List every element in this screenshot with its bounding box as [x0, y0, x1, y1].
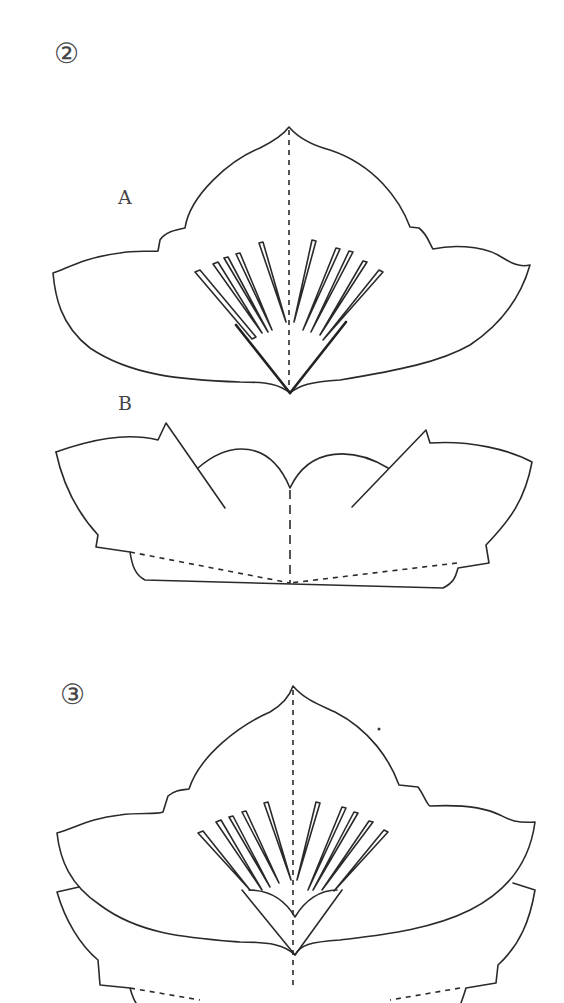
part-a-template — [53, 127, 530, 393]
diagram-canvas — [0, 0, 564, 1003]
part-b-template — [56, 423, 532, 588]
speck — [378, 728, 381, 731]
step-3-assembled — [57, 686, 535, 1003]
